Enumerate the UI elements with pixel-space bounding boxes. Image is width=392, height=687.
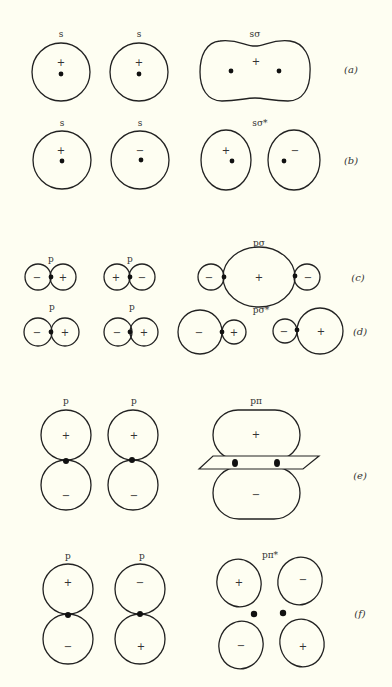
nucleus [274, 459, 280, 467]
sign: + [135, 57, 143, 68]
nucleus [59, 72, 64, 77]
orbital-label-p-2: p [127, 254, 133, 264]
row-a: s + s + sσ + (a) [32, 29, 358, 101]
sign: − [299, 574, 307, 585]
sign: − [136, 145, 144, 156]
nucleus [293, 274, 298, 279]
sign: + [64, 577, 72, 588]
nucleus [63, 458, 69, 464]
nucleus [139, 158, 144, 163]
p-lobe-bottom [115, 614, 165, 664]
nucleus [220, 330, 225, 335]
s-sigma-antibonding-lobe-1 [201, 130, 251, 190]
sign: + [140, 327, 148, 338]
sign: − [64, 641, 72, 652]
sign: + [59, 272, 67, 283]
p-lobe-top [43, 564, 93, 614]
orbital-label-p-2: p [131, 396, 137, 406]
row-e: p + − p + − pπ + − (e) [41, 396, 367, 519]
orbital-label-p-1: p [48, 254, 54, 264]
nucleus [232, 459, 238, 467]
orbital-label-s-2: s [138, 118, 143, 128]
nodal-plane [199, 456, 319, 469]
sign: − [33, 327, 41, 338]
nucleus [129, 457, 135, 463]
nucleus [251, 611, 257, 617]
orbital-label-p-pi: pπ [250, 396, 262, 406]
sign: − [304, 272, 312, 283]
nucleus [280, 610, 286, 616]
molecular-orbital-diagram: s + s + sσ + (a) s + s − sσ* + − (b) p [0, 0, 392, 687]
orbital-label-p-sigma-star: pσ* [253, 305, 270, 315]
sign: − [130, 490, 138, 501]
p-lobe-bottom [108, 460, 158, 510]
p-lobe-bottom [43, 614, 93, 664]
nucleus [49, 275, 54, 280]
sign: + [57, 57, 65, 68]
sign: − [280, 326, 288, 337]
row-label-d: (d) [353, 326, 367, 337]
s-sigma-antibonding-lobe-2 [268, 130, 320, 190]
sign: + [255, 272, 263, 283]
sign: − [237, 640, 245, 651]
orbital-label-p-pi-star: pπ* [262, 550, 279, 560]
nucleus [137, 611, 143, 617]
nucleus [49, 330, 54, 335]
orbital-label-s-1: s [59, 29, 64, 39]
orbital-label-p-1: p [49, 302, 55, 312]
row-label-a: (a) [344, 64, 358, 75]
nucleus [222, 275, 227, 280]
sign: − [113, 327, 121, 338]
nucleus [230, 159, 235, 164]
nucleus [128, 330, 133, 335]
orbital-label-p-1: p [65, 551, 71, 561]
sign: + [252, 429, 260, 440]
sign: − [62, 490, 70, 501]
row-f: p + − p − + pπ* + − − + (f) [43, 550, 366, 674]
sign: − [205, 272, 213, 283]
sign: + [222, 145, 230, 156]
orbital-label-p-1: p [63, 396, 69, 406]
sign: + [130, 430, 138, 441]
nucleus [282, 159, 287, 164]
row-d: p − + p − + pσ* − + − + (d) [24, 302, 367, 354]
orbital-label-p-2: p [129, 302, 135, 312]
orbital-label-s-sigma: sσ [250, 29, 261, 39]
orbital-label-s-sigma-star: sσ* [252, 118, 268, 128]
sign: − [33, 272, 41, 283]
s-sigma-bonding-orbital [200, 41, 310, 101]
sign: − [138, 272, 146, 283]
sign: − [136, 577, 144, 588]
sign: + [230, 327, 238, 338]
row-label-b: (b) [344, 155, 358, 166]
row-b: s + s − sσ* + − (b) [33, 118, 358, 190]
nucleus [128, 275, 133, 280]
sign: + [57, 145, 65, 156]
sign: + [112, 272, 120, 283]
sign: + [235, 577, 243, 588]
sign: + [299, 641, 307, 652]
nucleus [229, 69, 234, 74]
sign: + [317, 326, 325, 337]
row-label-c: (c) [351, 272, 365, 283]
sign: − [291, 145, 299, 156]
p-lobe-top [115, 564, 165, 614]
orbital-label-s-1: s [60, 118, 65, 128]
orbital-label-s-2: s [137, 29, 142, 39]
nucleus [277, 69, 282, 74]
sign: − [195, 327, 203, 338]
nucleus [60, 159, 65, 164]
row-label-e: (e) [353, 470, 367, 481]
sign: + [252, 56, 260, 67]
nucleus [295, 328, 300, 333]
sign: + [61, 327, 69, 338]
p-lobe-bottom [41, 460, 91, 510]
row-label-f: (f) [354, 608, 366, 619]
sign: − [252, 489, 260, 500]
nucleus [65, 612, 71, 618]
nucleus [137, 72, 142, 77]
row-c: p − + p + − pσ − + − (c) [25, 238, 365, 307]
sign: + [62, 430, 70, 441]
sign: + [137, 641, 145, 652]
orbital-label-p-2: p [139, 551, 145, 561]
